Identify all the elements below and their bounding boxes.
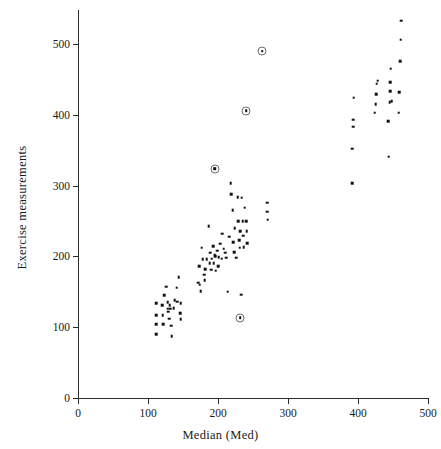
data-point	[203, 274, 206, 277]
x-tick-label: 200	[209, 407, 226, 420]
data-point	[216, 249, 219, 252]
data-point	[246, 242, 249, 245]
y-tick-mark	[73, 256, 78, 257]
data-point	[201, 258, 204, 261]
data-point	[204, 268, 207, 271]
data-point	[399, 38, 402, 41]
data-point	[397, 111, 400, 114]
data-point	[227, 291, 230, 294]
data-point	[215, 269, 218, 272]
data-point	[231, 209, 234, 212]
data-point	[390, 100, 393, 103]
data-point	[155, 314, 158, 317]
data-point	[240, 293, 243, 296]
data-point	[236, 196, 239, 199]
x-tick-label: 500	[419, 407, 436, 420]
data-point	[222, 247, 225, 250]
data-point	[352, 118, 355, 121]
data-point	[213, 262, 216, 265]
data-point	[169, 307, 172, 310]
data-point	[178, 276, 181, 279]
data-point	[162, 323, 165, 326]
data-point	[390, 67, 393, 70]
data-point	[168, 304, 171, 307]
data-point	[228, 235, 231, 238]
data-point	[155, 323, 158, 326]
x-tick-label: 400	[349, 407, 366, 420]
data-point	[389, 90, 392, 93]
data-point	[161, 304, 164, 307]
x-tick-mark	[218, 399, 219, 404]
data-point	[388, 155, 391, 158]
data-point	[398, 91, 401, 94]
data-point	[179, 312, 182, 315]
y-tick-label: 500	[53, 38, 70, 51]
y-tick-label: 300	[53, 179, 70, 192]
data-point	[217, 265, 220, 268]
highlighted-data-point	[242, 106, 251, 115]
data-point	[170, 324, 173, 327]
data-point	[161, 314, 164, 317]
y-tick-mark	[73, 186, 78, 187]
data-point	[208, 225, 211, 228]
data-point	[167, 310, 170, 313]
data-point	[219, 242, 222, 245]
data-point	[241, 196, 244, 199]
data-point	[168, 317, 171, 320]
data-point	[165, 286, 168, 289]
data-point	[208, 262, 211, 265]
data-point	[214, 255, 217, 258]
y-axis-title: Exercise measurements	[15, 128, 30, 288]
data-point	[376, 80, 379, 83]
data-point	[374, 103, 377, 106]
data-point	[180, 318, 183, 321]
x-axis-line	[78, 398, 429, 399]
data-point	[387, 120, 390, 123]
x-tick-mark	[358, 399, 359, 404]
data-point	[266, 210, 269, 213]
data-point	[376, 82, 379, 85]
data-point	[210, 257, 213, 260]
data-point	[229, 182, 232, 185]
x-tick-mark	[288, 399, 289, 404]
data-point	[243, 206, 246, 209]
data-point	[155, 333, 158, 336]
data-point	[203, 279, 206, 282]
data-point	[238, 239, 241, 242]
data-point	[399, 60, 402, 63]
data-point	[237, 220, 240, 223]
data-point	[241, 220, 244, 223]
data-point	[176, 300, 179, 303]
x-tick-mark	[78, 399, 79, 404]
data-point	[180, 302, 183, 305]
data-point	[245, 230, 248, 233]
data-point	[173, 307, 176, 310]
data-point	[351, 147, 354, 150]
data-point	[230, 193, 233, 196]
highlighted-data-point	[210, 164, 219, 173]
x-tick-mark	[428, 399, 429, 404]
data-point	[171, 335, 174, 338]
x-tick-label: 100	[139, 407, 156, 420]
data-point	[234, 227, 237, 230]
data-point	[221, 232, 224, 235]
y-tick-label: 400	[53, 108, 70, 121]
data-point	[238, 247, 241, 250]
y-axis-line	[78, 10, 79, 399]
data-point	[224, 252, 227, 255]
scatter-plot-figure: 0100200300400500 0100200300400500 Median…	[0, 0, 441, 449]
data-point	[389, 81, 392, 84]
x-axis-title: Median (Med)	[0, 428, 441, 443]
data-point	[235, 257, 238, 260]
data-point	[210, 269, 213, 272]
data-point	[201, 247, 204, 250]
data-point	[245, 220, 248, 223]
x-tick-mark	[148, 399, 149, 404]
data-point	[220, 257, 223, 260]
data-point	[243, 246, 246, 249]
data-point	[266, 201, 269, 204]
highlighted-data-point	[258, 47, 267, 56]
y-tick-mark	[73, 398, 78, 399]
data-point	[352, 126, 355, 129]
y-tick-mark	[73, 327, 78, 328]
